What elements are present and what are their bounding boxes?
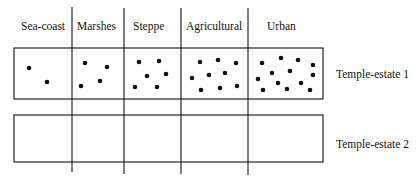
column-header-agricultural: Agricultural: [186, 20, 242, 32]
column-dividers: [72, 7, 248, 175]
dots-urban: [256, 56, 316, 93]
column-header-urban: Urban: [267, 20, 296, 32]
row-label-temple-estate-1: Temple-estate 1: [336, 68, 409, 80]
temple-estate-1-box: [14, 48, 323, 99]
temple-estate-diagram: Sea-coast Marshes Steppe Agricultural Ur…: [0, 0, 419, 180]
column-header-sea-coast: Sea-coast: [21, 20, 65, 32]
temple-estate-2-box: [14, 115, 323, 162]
column-header-marshes: Marshes: [77, 20, 116, 32]
dots-marshes: [79, 61, 110, 89]
dots-agricultural: [190, 58, 240, 93]
dots-sea-coast: [27, 66, 50, 85]
estate-1-dots: [27, 56, 316, 93]
row-label-temple-estate-2: Temple-estate 2: [336, 138, 409, 150]
dots-steppe: [133, 59, 169, 90]
column-header-steppe: Steppe: [133, 20, 164, 32]
